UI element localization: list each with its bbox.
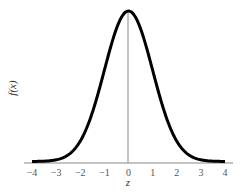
normal-distribution-chart: −4−3−2−101234 z f(x) <box>0 0 243 193</box>
x-tick-label: 2 <box>174 167 179 178</box>
x-axis-label: z <box>125 176 131 188</box>
x-tick-label: 4 <box>223 167 228 178</box>
x-tick-label: −4 <box>27 167 38 178</box>
x-tick-label: 3 <box>198 167 203 178</box>
x-tick-label: −1 <box>99 167 110 178</box>
x-tick-label: −2 <box>75 167 86 178</box>
x-tick-label: −3 <box>51 167 62 178</box>
y-axis-label: f(x) <box>6 80 19 96</box>
x-tick-label: 1 <box>150 167 155 178</box>
